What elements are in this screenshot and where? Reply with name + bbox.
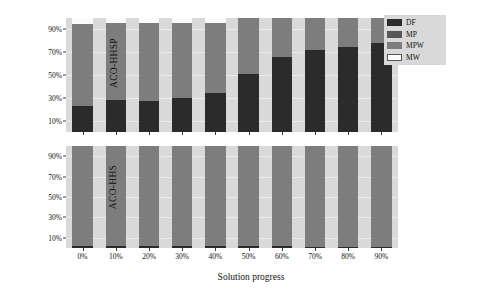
bar bbox=[338, 18, 359, 132]
bar-segment-mpw bbox=[72, 146, 93, 246]
bar-segment-df bbox=[338, 47, 359, 133]
x-axis-tick-mark bbox=[116, 248, 117, 251]
y-axis-tick-label: 70% bbox=[48, 172, 66, 181]
legend: DFMPMPWMW bbox=[384, 15, 446, 65]
bar-segment-mpw bbox=[238, 18, 259, 74]
legend-swatch-mp bbox=[387, 31, 402, 38]
bar bbox=[139, 146, 160, 248]
bar-segment-mpw bbox=[305, 18, 326, 50]
x-axis-tick-mark bbox=[249, 132, 250, 135]
x-axis-tick-mark bbox=[282, 132, 283, 135]
x-axis-label: Solution progress bbox=[0, 272, 502, 282]
x-axis-tick-mark bbox=[315, 248, 316, 251]
bar-segment-df bbox=[172, 98, 193, 132]
bar-segment-df bbox=[238, 74, 259, 132]
bar bbox=[338, 146, 359, 248]
bar bbox=[72, 146, 93, 248]
x-axis-tick-mark bbox=[282, 248, 283, 251]
bar bbox=[371, 146, 392, 248]
x-axis-tick-label: 40% bbox=[209, 252, 223, 261]
bar bbox=[172, 18, 193, 132]
bar bbox=[272, 18, 293, 132]
stacked-bar-chart-figure: 10%30%50%70%90% ACO-HHSP 10%30%50%70%90%… bbox=[0, 0, 502, 295]
y-axis-tick-label: 70% bbox=[48, 48, 66, 57]
x-axis-tick-mark bbox=[83, 248, 84, 251]
y-axis-tick-label: 10% bbox=[48, 116, 66, 125]
y-axis-tick-label: 50% bbox=[48, 193, 66, 202]
bar bbox=[205, 146, 226, 248]
x-axis-tick-mark bbox=[381, 248, 382, 251]
panel-aco-hhsp: 10%30%50%70%90% ACO-HHSP bbox=[66, 18, 398, 132]
x-axis-tick-mark bbox=[381, 132, 382, 135]
x-axis-tick-mark bbox=[149, 248, 150, 251]
legend-label: MW bbox=[406, 53, 420, 62]
bar-segment-mpw bbox=[172, 146, 193, 246]
legend-label: MP bbox=[406, 30, 417, 39]
x-axis-tick-label: 60% bbox=[275, 252, 289, 261]
x-axis-tick-mark bbox=[348, 132, 349, 135]
bar bbox=[238, 18, 259, 132]
y-axis-label-aco-hhsp: ACO-HHSP bbox=[109, 3, 119, 123]
x-axis-tick-label: 80% bbox=[341, 252, 355, 261]
x-axis-tick-mark bbox=[315, 132, 316, 135]
legend-swatch-mw bbox=[387, 54, 402, 61]
bar-segment-mpw bbox=[371, 146, 392, 247]
bar-segment-mpw bbox=[305, 146, 326, 247]
bar-segment-df bbox=[205, 93, 226, 132]
bar-segment-df bbox=[139, 101, 160, 132]
y-axis-tick-label: 10% bbox=[48, 233, 66, 242]
bar-segment-mpw bbox=[272, 146, 293, 246]
x-axis-tick-mark bbox=[182, 248, 183, 251]
bar-segment-mpw bbox=[172, 23, 193, 98]
x-axis-tick-label: 0% bbox=[78, 252, 88, 261]
y-axis-tick-label: 30% bbox=[48, 93, 66, 102]
bar bbox=[72, 18, 93, 132]
x-axis-tick-mark bbox=[83, 132, 84, 135]
legend-item-mpw: MPW bbox=[387, 41, 443, 51]
bar bbox=[272, 146, 293, 248]
x-axis-tick-mark bbox=[182, 132, 183, 135]
legend-label: MPW bbox=[406, 41, 424, 50]
bar-segment-mpw bbox=[205, 23, 226, 94]
bar bbox=[238, 146, 259, 248]
y-axis-tick-label: 90% bbox=[48, 152, 66, 161]
bar-segment-mpw bbox=[338, 146, 359, 247]
panel-aco-hhs: 10%30%50%70%90%0%10%20%30%40%50%60%70%80… bbox=[66, 146, 398, 248]
legend-label: DF bbox=[406, 18, 416, 27]
y-axis-tick-label: 50% bbox=[48, 71, 66, 80]
x-axis-tick-label: 70% bbox=[308, 252, 322, 261]
bar bbox=[305, 18, 326, 132]
x-axis-tick-label: 90% bbox=[375, 252, 389, 261]
bar-segment-df bbox=[272, 57, 293, 132]
bar bbox=[172, 146, 193, 248]
legend-swatch-df bbox=[387, 19, 402, 26]
bar bbox=[205, 18, 226, 132]
bar-segment-mpw bbox=[139, 146, 160, 246]
legend-item-mp: MP bbox=[387, 30, 443, 40]
bar-segment-df bbox=[305, 50, 326, 132]
x-axis-tick-mark bbox=[348, 248, 349, 251]
bar bbox=[139, 18, 160, 132]
bar-segment-mpw bbox=[139, 23, 160, 102]
x-axis-tick-mark bbox=[149, 132, 150, 135]
bar-segment-mpw bbox=[272, 18, 293, 57]
legend-item-mw: MW bbox=[387, 53, 443, 63]
y-axis-tick-label: 90% bbox=[48, 25, 66, 34]
bar-segment-mpw bbox=[338, 18, 359, 47]
legend-swatch-mpw bbox=[387, 42, 402, 49]
bar-segment-df bbox=[72, 106, 93, 132]
bar-segment-mpw bbox=[205, 146, 226, 246]
bar-segment-mpw bbox=[238, 146, 259, 246]
bar-segment-mpw bbox=[72, 24, 93, 106]
bar bbox=[305, 146, 326, 248]
x-axis-tick-label: 20% bbox=[142, 252, 156, 261]
x-axis-tick-label: 50% bbox=[242, 252, 256, 261]
y-axis-label-aco-hhs: ACO-HHS bbox=[108, 132, 118, 242]
x-axis-tick-mark bbox=[249, 248, 250, 251]
x-axis-tick-mark bbox=[215, 132, 216, 135]
x-axis-tick-mark bbox=[215, 248, 216, 251]
x-axis-tick-label: 10% bbox=[109, 252, 123, 261]
x-axis-tick-label: 30% bbox=[175, 252, 189, 261]
legend-item-df: DF bbox=[387, 18, 443, 28]
y-axis-tick-label: 30% bbox=[48, 213, 66, 222]
